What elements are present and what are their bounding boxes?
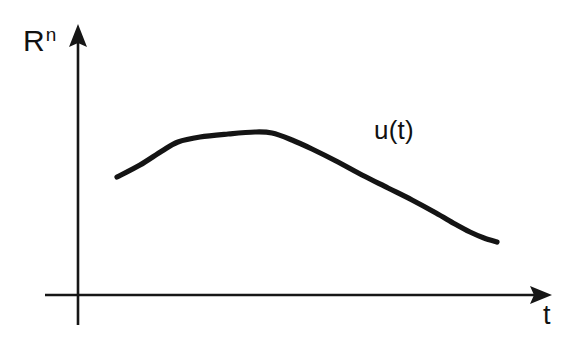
y-axis-label-exponent: n: [46, 24, 57, 45]
plot-svg: [0, 0, 575, 347]
curve-label-u-of-t: u(t): [374, 117, 414, 143]
curve-u-of-t: [117, 132, 497, 242]
y-axis-label: Rn: [23, 24, 55, 56]
y-axis-label-base: R: [23, 24, 45, 57]
figure-canvas: Rn t u(t): [0, 0, 575, 347]
x-axis-label: t: [543, 302, 551, 329]
